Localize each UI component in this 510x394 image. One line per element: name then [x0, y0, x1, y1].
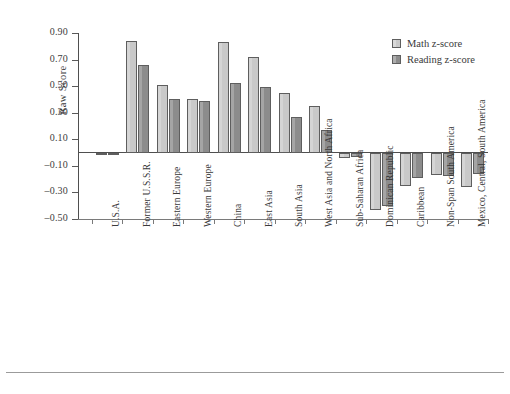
y-axis-tick: –0.30	[72, 192, 78, 193]
y-axis-tick-label: –0.50	[45, 212, 69, 223]
x-axis-tick	[488, 219, 489, 224]
bar-math	[279, 93, 290, 153]
x-axis-tick	[275, 219, 276, 224]
x-axis-tick	[244, 219, 245, 224]
x-axis-category-label: Caribbean	[416, 187, 426, 227]
x-axis-tick	[183, 219, 184, 224]
y-axis-tick: 0.90	[72, 33, 78, 34]
y-axis-tick: 0.30	[72, 113, 78, 114]
bar-math	[218, 42, 229, 152]
y-axis-tick: 0.50	[72, 86, 78, 87]
y-axis-line	[78, 33, 79, 219]
bar-chart-figure: Raw Score 0.900.700.500.300.10–0.10–0.30…	[0, 0, 510, 394]
x-axis-tick	[92, 219, 93, 224]
bar-reading	[230, 83, 241, 152]
x-axis-category-label: Eastern Europe	[172, 167, 182, 227]
bar-math	[400, 153, 411, 186]
bottom-divider-rule	[6, 372, 504, 373]
x-axis-category-label: South Asia	[294, 184, 304, 227]
x-axis-category-label: Former U.S.S.R.	[142, 161, 152, 227]
bar-reading	[412, 153, 423, 178]
y-axis-tick: –0.10	[72, 166, 78, 167]
y-axis-tick-label: 0.10	[50, 132, 68, 143]
y-axis-tick: –0.50	[72, 219, 78, 220]
y-axis-tick-label: 0.50	[50, 79, 68, 90]
legend-label: Math z-score	[407, 38, 462, 49]
x-axis-category-label: China	[233, 204, 243, 227]
legend: Math z-scoreReading z-score	[392, 38, 475, 70]
bar-math	[339, 153, 350, 158]
x-axis-tick	[122, 219, 123, 224]
x-axis-category-label: U.S.A.	[111, 200, 121, 227]
bar-reading	[108, 153, 119, 155]
bar-math	[431, 153, 442, 176]
x-axis-category-label: Mexico, Central, South America	[477, 99, 487, 227]
y-axis-tick-label: –0.10	[45, 159, 69, 170]
bar-math	[370, 153, 381, 210]
bar-math	[309, 106, 320, 153]
x-axis-tick	[366, 219, 367, 224]
legend-item: Math z-score	[392, 38, 475, 49]
x-axis-category-label: East Asia	[264, 190, 274, 227]
x-axis-tick	[153, 219, 154, 224]
legend-swatch-icon	[392, 55, 401, 64]
y-axis-tick-label: –0.30	[45, 185, 69, 196]
bar-math	[157, 85, 168, 153]
legend-label: Reading z-score	[407, 54, 475, 65]
bar-reading	[169, 99, 180, 152]
x-axis-tick	[214, 219, 215, 224]
legend-swatch-icon	[392, 39, 401, 48]
x-axis-tick	[458, 219, 459, 224]
bar-group	[218, 33, 241, 219]
x-axis-category-label: Sub-Saharan Africa	[355, 150, 365, 227]
x-axis-category-label: Non-Span South America	[446, 126, 456, 227]
y-axis-tick: 0.70	[72, 60, 78, 61]
x-axis-tick	[427, 219, 428, 224]
x-axis-category-label: West Asia and North Africa	[324, 118, 334, 227]
bar-reading	[199, 101, 210, 153]
bar-group	[96, 33, 119, 219]
bar-math	[461, 153, 472, 188]
x-axis-category-label: Western Europe	[203, 164, 213, 227]
x-axis-tick	[336, 219, 337, 224]
y-axis-tick-label: 0.30	[50, 106, 68, 117]
bar-reading	[260, 87, 271, 152]
x-axis-tick	[397, 219, 398, 224]
bar-math	[96, 153, 107, 155]
y-axis-tick-label: 0.90	[50, 26, 68, 37]
bar-math	[248, 57, 259, 153]
x-axis-category-label: Dominican Republic	[385, 145, 395, 227]
bar-math	[187, 99, 198, 152]
y-axis-tick-label: 0.70	[50, 53, 68, 64]
legend-item: Reading z-score	[392, 54, 475, 65]
bar-reading	[138, 65, 149, 153]
y-axis-tick: 0.10	[72, 139, 78, 140]
bar-math	[126, 41, 137, 153]
x-axis-tick	[305, 219, 306, 224]
bar-reading	[291, 117, 302, 153]
